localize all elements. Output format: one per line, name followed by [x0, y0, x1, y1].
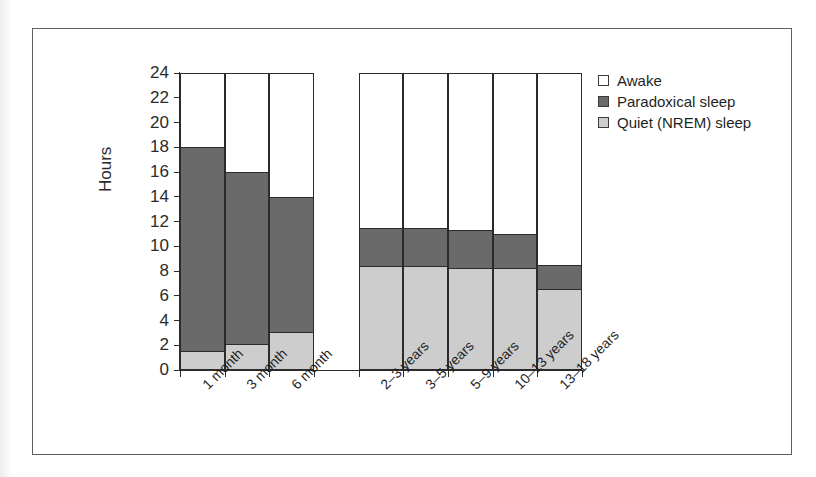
y-axis-tick: 24 [150, 63, 180, 83]
y-axis-tick: 4 [160, 311, 180, 331]
y-axis-tick-label: 14 [150, 187, 169, 207]
bar-segment-paradoxical [181, 147, 224, 351]
legend-item-quiet-nrem-sleep: Quiet (NREM) sleep [598, 112, 751, 133]
bar-segment-awake [270, 74, 313, 197]
y-axis-tick: 12 [150, 212, 180, 232]
scan-edge-artifact [0, 0, 12, 477]
y-axis-tick-label: 16 [150, 162, 169, 182]
legend-label-paradoxical-sleep: Paradoxical sleep [617, 93, 735, 110]
y-axis-tick: 2 [160, 335, 180, 355]
figure-frame: Hours 024681012141618202224 1 month3 mon… [32, 28, 792, 455]
chart-bar [225, 73, 270, 370]
y-axis-tick-label: 12 [150, 212, 169, 232]
y-axis-tick: 8 [160, 261, 180, 281]
bar-segment-paradoxical [494, 234, 537, 268]
legend-item-paradoxical-sleep: Paradoxical sleep [598, 91, 751, 112]
chart-bar [403, 73, 448, 370]
legend-label-quiet-nrem-sleep: Quiet (NREM) sleep [617, 114, 751, 131]
chart-bar [493, 73, 538, 370]
y-axis-tick: 0 [160, 360, 180, 380]
y-axis-tick: 10 [150, 236, 180, 256]
y-axis-tick: 18 [150, 137, 180, 157]
bar-segment-awake [360, 74, 403, 228]
legend-item-awake: Awake [598, 70, 751, 91]
y-axis-tick: 6 [160, 286, 180, 306]
bar-segment-awake [538, 74, 581, 265]
y-axis-tick: 22 [150, 88, 180, 108]
x-axis-tick [180, 370, 181, 377]
chart-bar [269, 73, 314, 370]
y-axis-tick: 20 [150, 113, 180, 133]
paradoxical-swatch-icon [598, 96, 609, 107]
y-axis-tick: 16 [150, 162, 180, 182]
y-axis-tick-label: 22 [150, 88, 169, 108]
nrem-swatch-icon [598, 117, 609, 128]
legend-label-awake: Awake [617, 72, 662, 89]
y-axis-tick-label: 24 [150, 63, 169, 83]
y-axis-tick-label: 10 [150, 236, 169, 256]
y-axis-title: Hours [96, 147, 116, 192]
bar-segment-awake [181, 74, 224, 147]
y-axis-tick-label: 8 [160, 261, 169, 281]
bar-segment-paradoxical [449, 230, 492, 268]
bar-segment-paradoxical [404, 228, 447, 266]
awake-swatch-icon [598, 75, 609, 86]
y-axis-tick-label: 2 [160, 335, 169, 355]
chart-bar [537, 73, 582, 370]
bar-segment-awake [226, 74, 269, 172]
bar-segment-paradoxical [360, 228, 403, 266]
y-axis-tick-label: 20 [150, 113, 169, 133]
chart-legend: Awake Paradoxical sleep Quiet (NREM) sle… [598, 70, 751, 133]
bar-segment-paradoxical [270, 197, 313, 332]
chart-bar [359, 73, 404, 370]
y-axis-tick-label: 4 [160, 311, 169, 331]
bar-segment-nrem [360, 266, 403, 369]
chart-bar [448, 73, 493, 370]
bar-segment-paradoxical [538, 265, 581, 290]
bar-segment-awake [404, 74, 447, 228]
x-axis-tick [359, 370, 360, 377]
bar-segment-awake [494, 74, 537, 234]
plot-area: 024681012141618202224 [180, 73, 582, 370]
y-axis-tick: 14 [150, 187, 180, 207]
y-axis-tick-label: 6 [160, 286, 169, 306]
scan-caption-artifact [44, 460, 464, 472]
chart-bar [180, 73, 225, 370]
y-axis-tick-label: 18 [150, 137, 169, 157]
bar-segment-paradoxical [226, 172, 269, 344]
y-axis-tick-label: 0 [160, 360, 169, 380]
bar-segment-awake [449, 74, 492, 230]
